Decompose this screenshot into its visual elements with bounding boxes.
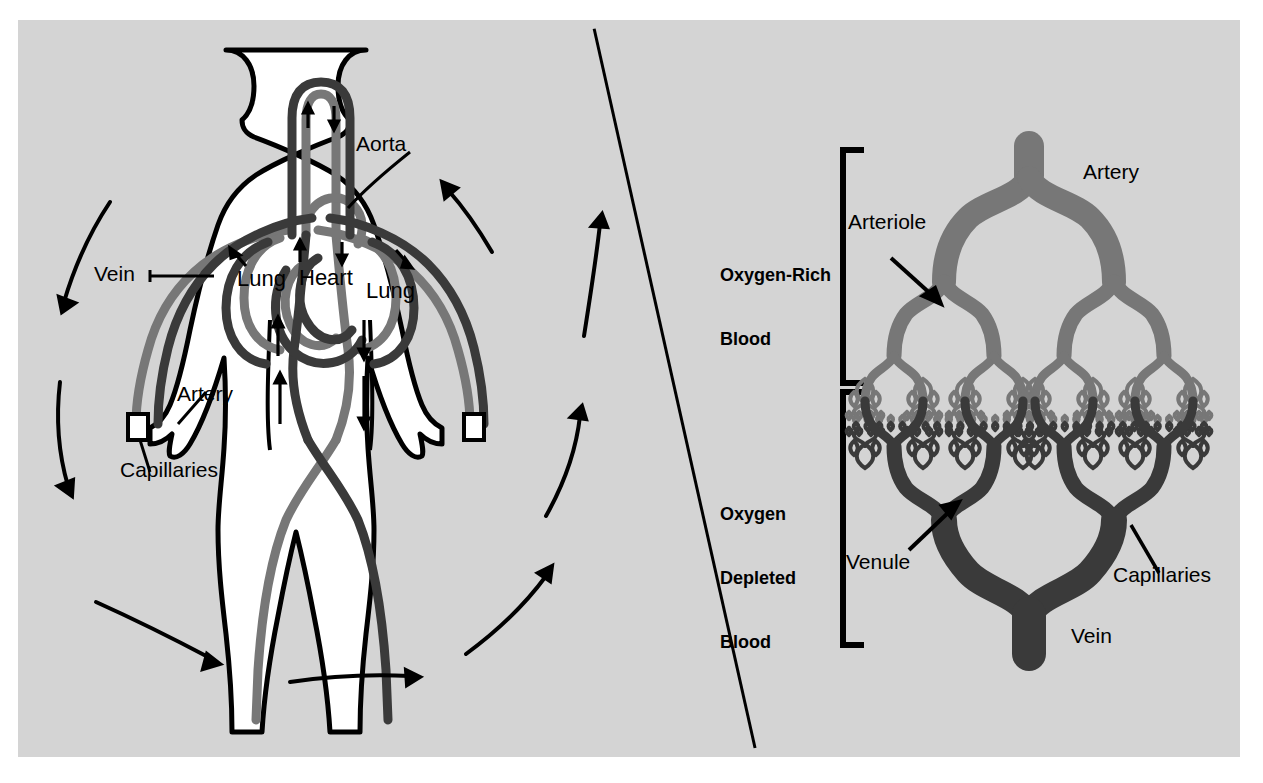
oxygen-depleted-line2: Depleted bbox=[720, 568, 796, 589]
bracket-oxygen-rich bbox=[843, 150, 861, 383]
label-lung-right: Lung bbox=[366, 278, 415, 304]
label-vein-right: Vein bbox=[1071, 624, 1112, 648]
hand-capillary-box-right bbox=[464, 414, 484, 440]
oxygen-depleted-line1: Oxygen bbox=[720, 504, 796, 525]
label-vein: Vein bbox=[94, 262, 135, 286]
label-capillaries-left: Capillaries bbox=[120, 458, 218, 482]
label-lung-left: Lung bbox=[237, 266, 286, 292]
oxygen-depleted-line3: Blood bbox=[720, 632, 796, 653]
venous-tree bbox=[847, 401, 1212, 654]
aorta-leader bbox=[348, 152, 410, 208]
label-capillaries-right: Capillaries bbox=[1113, 563, 1211, 587]
oxygen-rich-line2: Blood bbox=[720, 329, 831, 350]
hand-capillary-box-left bbox=[128, 414, 148, 440]
label-artery: Artery bbox=[177, 382, 233, 406]
arterial-tree bbox=[847, 146, 1212, 423]
figure-panel: Aorta Vein Artery Capillaries Heart Lung… bbox=[18, 20, 1240, 757]
label-venule: Venule bbox=[846, 550, 910, 574]
oxygen-rich-line1: Oxygen-Rich bbox=[720, 265, 831, 286]
label-arteriole: Arteriole bbox=[848, 210, 926, 234]
label-heart: Heart bbox=[299, 265, 353, 291]
label-artery-right: Artery bbox=[1083, 160, 1139, 184]
label-oxygen-rich-blood: Oxygen-Rich Blood bbox=[720, 223, 831, 393]
label-aorta: Aorta bbox=[356, 132, 406, 156]
figure-root: Aorta Vein Artery Capillaries Heart Lung… bbox=[0, 0, 1263, 783]
label-oxygen-depleted-blood: Oxygen Depleted Blood bbox=[720, 462, 796, 696]
